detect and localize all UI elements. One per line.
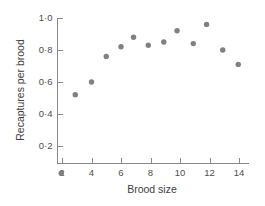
x-tick-label-2: 6 bbox=[118, 167, 123, 178]
x-axis-tick-labels: 2468101214 bbox=[59, 167, 244, 178]
data-point-series bbox=[59, 22, 241, 176]
data-point bbox=[59, 171, 64, 176]
data-point bbox=[174, 28, 179, 33]
data-point bbox=[236, 62, 241, 67]
data-point bbox=[204, 22, 209, 27]
data-point bbox=[220, 47, 225, 52]
y-tick-label-4: 1·0 bbox=[39, 12, 53, 23]
scatter-chart-figure: 0·20·40·60·81·0 2468101214 Brood size Re… bbox=[0, 0, 265, 206]
x-tick-label-6: 14 bbox=[234, 167, 245, 178]
y-tick-label-2: 0·6 bbox=[39, 76, 53, 87]
x-tick-label-5: 12 bbox=[204, 167, 215, 178]
data-point bbox=[118, 44, 123, 49]
plot-canvas: 0·20·40·60·81·0 2468101214 Brood size Re… bbox=[0, 0, 265, 206]
x-tick-label-4: 10 bbox=[175, 167, 186, 178]
y-axis-ticks bbox=[58, 19, 63, 147]
x-tick-label-1: 4 bbox=[89, 167, 94, 178]
data-point bbox=[73, 92, 78, 97]
y-tick-label-3: 0·8 bbox=[39, 44, 53, 55]
data-point bbox=[146, 43, 151, 48]
data-point bbox=[104, 54, 109, 59]
x-axis-title: Brood size bbox=[127, 183, 177, 195]
x-axis-ticks bbox=[63, 158, 240, 164]
data-point bbox=[131, 35, 136, 40]
y-axis-title: Recaptures per brood bbox=[14, 39, 26, 141]
y-tick-label-1: 0·4 bbox=[39, 108, 53, 119]
data-point bbox=[191, 41, 196, 46]
y-axis-tick-labels: 0·20·40·60·81·0 bbox=[39, 12, 53, 151]
data-point bbox=[161, 39, 166, 44]
y-tick-label-0: 0·2 bbox=[39, 140, 53, 151]
x-tick-label-3: 8 bbox=[148, 167, 153, 178]
data-point bbox=[89, 79, 94, 84]
